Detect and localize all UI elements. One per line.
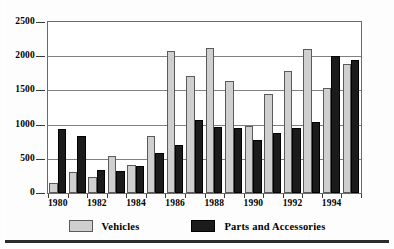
bar-series-container	[48, 22, 361, 193]
bar-vehicles-1995	[343, 64, 351, 193]
bar-vehicles-1988	[206, 48, 214, 193]
bar-vehicles-1986	[167, 51, 175, 193]
bar-vehicles-1994	[323, 88, 331, 193]
bar-parts-and-accessories-1981	[77, 136, 85, 193]
chart-figure: 05001000150020002500 1980198219841986198…	[0, 0, 394, 249]
bar-parts-and-accessories-1989	[234, 128, 242, 193]
y-axis-tick-mark	[36, 56, 45, 57]
bar-vehicles-1991	[264, 94, 272, 193]
bar-parts-and-accessories-1995	[351, 60, 359, 193]
bar-parts-and-accessories-1992	[292, 128, 300, 193]
chart-legend: Vehicles Parts and Accessories	[0, 216, 394, 236]
x-axis-tick-label-1980: 1980	[48, 198, 68, 208]
legend-item-vehicles: Vehicles	[69, 220, 140, 232]
bar-parts-and-accessories-1994	[331, 56, 339, 193]
bar-parts-and-accessories-1982	[97, 170, 105, 193]
bar-parts-and-accessories-1991	[273, 133, 281, 193]
bar-parts-and-accessories-1987	[195, 120, 203, 193]
bar-parts-and-accessories-1986	[175, 145, 183, 193]
bar-parts-and-accessories-1985	[155, 153, 163, 193]
bar-vehicles-1992	[284, 71, 292, 193]
x-axis-tick-label-1994: 1994	[322, 198, 342, 208]
y-axis-tick-label: 0	[30, 188, 35, 198]
legend-label-vehicles: Vehicles	[102, 221, 140, 232]
bottom-rule-divider	[5, 240, 389, 243]
bar-vehicles-1983	[108, 156, 116, 193]
x-axis-tick-label-1988: 1988	[204, 198, 224, 208]
y-axis-tick-mark	[36, 193, 45, 194]
y-axis-tick-label: 1500	[15, 86, 35, 96]
legend-item-parts-and-accessories: Parts and Accessories	[191, 220, 325, 232]
bar-vehicles-1990	[245, 126, 253, 193]
bar-vehicles-1989	[225, 81, 233, 193]
bar-vehicles-1982	[88, 177, 96, 193]
y-axis-tick-label: 2000	[15, 51, 35, 61]
y-axis-tick-mark	[36, 125, 45, 126]
x-axis: 19801982198419861988199019921994	[47, 194, 362, 210]
bar-vehicles-1980	[49, 183, 57, 193]
bar-vehicles-1981	[69, 172, 77, 193]
bar-vehicles-1984	[127, 165, 135, 193]
legend-label-parts-and-accessories: Parts and Accessories	[224, 221, 325, 232]
bar-vehicles-1993	[303, 49, 311, 193]
plot-area	[47, 21, 362, 194]
y-axis-tick-label: 500	[20, 154, 35, 164]
x-axis-tick-label-1982: 1982	[87, 198, 107, 208]
x-axis-tick-mark	[361, 194, 362, 198]
bar-vehicles-1985	[147, 136, 155, 193]
bar-parts-and-accessories-1993	[312, 122, 320, 193]
y-axis-tick-label: 2500	[15, 17, 35, 27]
x-axis-tick-label-1986: 1986	[165, 198, 185, 208]
y-axis-tick-mark	[36, 159, 45, 160]
bar-vehicles-1987	[186, 76, 194, 193]
bar-parts-and-accessories-1990	[253, 140, 261, 193]
x-axis-tick-label-1992: 1992	[283, 198, 303, 208]
bar-parts-and-accessories-1984	[136, 166, 144, 193]
vehicles-swatch-icon	[69, 220, 93, 232]
y-axis: 05001000150020002500	[0, 21, 45, 194]
y-axis-tick-mark	[36, 22, 45, 23]
y-axis-tick-mark	[36, 90, 45, 91]
parts-and-accessories-swatch-icon	[191, 220, 215, 232]
bar-parts-and-accessories-1980	[58, 129, 66, 193]
bar-parts-and-accessories-1988	[214, 127, 222, 193]
x-axis-tick-label-1990: 1990	[244, 198, 264, 208]
bar-parts-and-accessories-1983	[116, 171, 124, 193]
y-axis-tick-label: 1000	[15, 120, 35, 130]
x-axis-tick-label-1984: 1984	[126, 198, 146, 208]
